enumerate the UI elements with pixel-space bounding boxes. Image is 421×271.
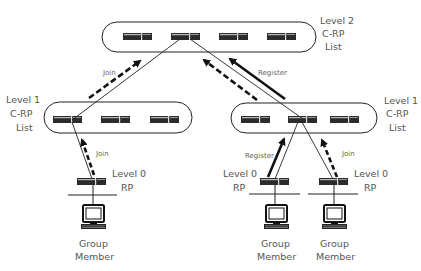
register-label: Register xyxy=(245,152,274,160)
member-left-label-1: Group xyxy=(79,238,108,249)
level1-left-label-1: Level 1 xyxy=(6,94,40,105)
level1-left-label-3: List xyxy=(16,122,33,133)
level0-left-rp xyxy=(68,178,117,229)
join-arrow-l0left-l1 xyxy=(82,140,94,175)
rp-hierarchy-diagram: Level 2 C-RP List Level 1 C-RP List Leve… xyxy=(0,0,421,271)
router-icon xyxy=(171,33,200,40)
level0-right-label-1: Level 0 xyxy=(354,168,388,179)
join-arrow-l1left-l2 xyxy=(89,61,140,98)
router-icon xyxy=(101,116,130,123)
router-icon xyxy=(260,178,289,185)
router-icon xyxy=(319,178,348,185)
level1-left-label-2: C-RP xyxy=(10,108,33,119)
level2-crp-list xyxy=(102,22,316,52)
join-arrow-l2-l1right xyxy=(204,60,257,100)
level0-right-label-2: RP xyxy=(364,182,377,193)
level1-right-label-3: List xyxy=(389,122,406,133)
router-icon xyxy=(123,33,152,40)
level2-label-2: C-RP xyxy=(322,28,345,39)
level1-right-label-2: C-RP xyxy=(386,108,409,119)
level0-mid-rp xyxy=(249,178,300,229)
router-icon xyxy=(150,116,179,123)
level0-mid-label-1: Level 0 xyxy=(223,168,257,179)
router-icon xyxy=(267,33,296,40)
router-icon xyxy=(53,116,82,123)
level2-label-3: List xyxy=(325,41,342,52)
register-arrow-l1right-l2 xyxy=(230,59,285,99)
level0-mid-label-2: RP xyxy=(233,182,246,193)
computer-icon xyxy=(322,205,347,229)
level2-label-1: Level 2 xyxy=(320,15,354,26)
router-icon xyxy=(288,116,317,123)
computer-icon xyxy=(264,205,289,229)
level1-right-label-1: Level 1 xyxy=(384,95,418,106)
join-label: Join xyxy=(341,150,355,158)
member-right-label-1: Group xyxy=(320,238,349,249)
level0-left-label-2: RP xyxy=(121,182,134,193)
level1-right-crp-list xyxy=(231,103,377,133)
router-icon xyxy=(241,116,270,123)
router-icon xyxy=(219,33,248,40)
router-icon xyxy=(77,178,106,185)
router-icon xyxy=(330,116,359,123)
join-label: Join xyxy=(102,69,116,77)
register-label: Register xyxy=(258,69,287,77)
level1-left-crp-list xyxy=(44,102,192,133)
member-left-label-2: Member xyxy=(75,251,114,262)
member-mid-label-1: Group xyxy=(261,238,290,249)
join-arrow-l0right-l1 xyxy=(322,140,337,177)
tree-links xyxy=(72,39,333,179)
level0-left-label-1: Level 0 xyxy=(112,168,146,179)
member-right-label-2: Member xyxy=(316,251,355,262)
join-label: Join xyxy=(95,150,109,158)
computer-icon xyxy=(81,205,106,229)
level0-right-rp xyxy=(308,178,358,229)
member-mid-label-2: Member xyxy=(257,251,296,262)
